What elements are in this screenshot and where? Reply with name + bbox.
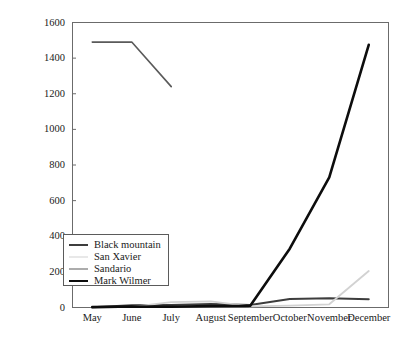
y-tick-label: 1200 (31, 88, 65, 99)
y-tick-label: 1000 (31, 123, 65, 134)
line-chart-canvas (0, 0, 419, 340)
legend-item[interactable]: Mark Wilmer (64, 275, 168, 286)
chart-legend: Black mountainSan XavierSandarioMark Wil… (63, 234, 169, 286)
y-tick-label: 400 (31, 230, 65, 241)
chart-background (0, 0, 419, 340)
legend-item[interactable]: San Xavier (64, 251, 168, 262)
x-tick-label: December (341, 312, 397, 324)
legend-item[interactable]: Black mountain (64, 239, 168, 250)
legend-line-swatch (69, 254, 88, 260)
y-tick-label: 800 (31, 159, 65, 170)
y-tick-label: 200 (31, 266, 65, 277)
legend-item-label: Mark Wilmer (94, 275, 151, 286)
legend-item[interactable]: Sandario (64, 263, 168, 274)
chart-figure: Number of settled mussels 16001400120010… (0, 0, 419, 340)
legend-line-swatch (69, 242, 88, 248)
legend-item-label: Black mountain (94, 239, 161, 250)
y-tick-label: 600 (31, 195, 65, 206)
y-tick-label: 0 (31, 302, 65, 313)
legend-item-label: San Xavier (94, 251, 141, 262)
legend-line-swatch (69, 266, 88, 272)
legend-item-label: Sandario (94, 263, 131, 274)
legend-line-swatch (69, 278, 88, 284)
y-tick-label: 1600 (31, 17, 65, 28)
y-tick-label: 1400 (31, 52, 65, 63)
